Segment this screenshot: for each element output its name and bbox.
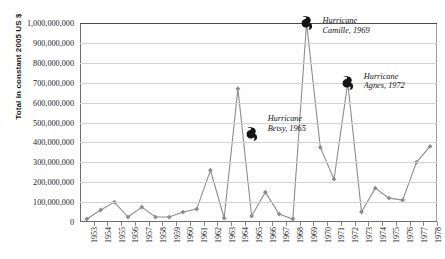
x-axis-tick (437, 222, 438, 226)
hurricane-annotation-label: HurricaneCamille, 1969 (323, 16, 370, 35)
x-axis-tick-label: 1973 (365, 227, 374, 243)
x-axis-tick-label: 1970 (324, 227, 333, 243)
data-point-marker (359, 210, 364, 215)
x-axis-tick-label: 1953 (90, 227, 99, 243)
x-axis-tick-label: 1967 (282, 227, 291, 243)
series-line (87, 23, 430, 219)
gridline (80, 162, 437, 163)
x-axis-tick (231, 222, 232, 226)
x-axis-tick (245, 222, 246, 226)
x-axis-tick (135, 222, 136, 226)
data-point-marker (332, 177, 337, 182)
annotation-line-1: Hurricane (268, 114, 306, 124)
hurricane-annotation-label: HurricaneBetsy, 1965 (268, 114, 306, 133)
x-axis-tick-label: 1961 (200, 227, 209, 243)
x-axis-tick (162, 222, 163, 226)
x-axis-tick (176, 222, 177, 226)
annotation-line-1: Hurricane (323, 16, 370, 26)
annotation-line-1: Hurricane (364, 72, 405, 82)
x-axis-tick (286, 222, 287, 226)
x-axis-tick-label: 1968 (296, 227, 305, 243)
y-axis-tick-label: 0 (70, 218, 74, 227)
x-axis-tick-label: 1963 (228, 227, 237, 243)
gridline (80, 202, 437, 203)
x-axis-tick-label: 1964 (241, 227, 250, 243)
x-axis-tick-label: 1977 (420, 227, 429, 243)
x-axis-tick-label: 1971 (337, 227, 346, 243)
x-axis-tick-label: 1975 (392, 227, 401, 243)
gridline (80, 43, 437, 44)
x-axis-tick-label: 1956 (131, 227, 140, 243)
x-axis-tick (149, 222, 150, 226)
x-axis-tick-label: 1958 (159, 227, 168, 243)
x-axis-tick (94, 222, 95, 226)
data-point-marker (208, 168, 213, 173)
y-axis-tick-label: 1,000,000,000 (27, 19, 74, 28)
x-axis-tick (341, 222, 342, 226)
hurricane-icon (243, 126, 260, 143)
x-axis-tick-label: 1965 (255, 227, 264, 243)
x-axis-tick (217, 222, 218, 226)
hurricane-damage-chart: Total in constant 2005 US $ 1,000,000,00… (0, 0, 445, 259)
x-axis-tick (313, 222, 314, 226)
data-point-marker (222, 216, 227, 221)
gridline (80, 23, 437, 24)
x-axis-tick (300, 222, 301, 226)
x-axis-tick-label: 1955 (118, 227, 127, 243)
x-axis-tick (382, 222, 383, 226)
x-axis-tick-label: 1959 (173, 227, 182, 243)
data-point-marker (318, 145, 323, 150)
x-axis-tick (190, 222, 191, 226)
x-axis-tick (327, 222, 328, 226)
x-axis-tick-label: 1954 (104, 227, 113, 243)
gridline (80, 182, 437, 183)
x-axis-tick-label: 1966 (269, 227, 278, 243)
gridline (80, 103, 437, 104)
annotation-line-2: Betsy, 1965 (268, 124, 306, 134)
data-point-marker (167, 215, 172, 220)
y-axis-tick-label: 500,000,000 (33, 118, 74, 127)
y-axis-tick-label: 900,000,000 (33, 38, 74, 47)
y-axis-tick-label: 200,000,000 (33, 178, 74, 187)
x-axis-tick (259, 222, 260, 226)
x-axis-tick (368, 222, 369, 226)
data-point-marker (249, 214, 254, 219)
data-point-marker (181, 210, 186, 215)
x-axis-tick (423, 222, 424, 226)
y-axis-tick-label: 600,000,000 (33, 98, 74, 107)
plot-area (80, 23, 437, 222)
annotation-line-2: Agnes, 1972 (364, 81, 405, 91)
data-point-marker (194, 207, 199, 212)
y-axis-tick-label: 400,000,000 (33, 138, 74, 147)
annotation-line-2: Camille, 1969 (323, 26, 370, 36)
x-axis-tick-label: 1969 (310, 227, 319, 243)
y-axis-tick-label: 700,000,000 (33, 78, 74, 87)
x-axis-tick-label: 1957 (145, 227, 154, 243)
x-axis-tick (410, 222, 411, 226)
x-axis-tick-label: 1978 (434, 227, 443, 243)
data-point-marker (290, 217, 295, 222)
x-axis-tick-label: 1960 (186, 227, 195, 243)
y-axis-tick-label: 100,000,000 (33, 198, 74, 207)
x-axis-tick (396, 222, 397, 226)
x-axis-tick (272, 222, 273, 226)
x-axis-tick-label: 1974 (379, 227, 388, 243)
y-axis-tick-label: 300,000,000 (33, 158, 74, 167)
y-axis-tick-label: 800,000,000 (33, 58, 74, 67)
x-axis-tick (107, 222, 108, 226)
gridline (80, 63, 437, 64)
x-axis-tick-label: 1972 (351, 227, 360, 243)
x-axis-tick (121, 222, 122, 226)
hurricane-icon (298, 15, 315, 32)
x-axis-tick-label: 1962 (214, 227, 223, 243)
hurricane-annotation-label: HurricaneAgnes, 1972 (364, 72, 405, 91)
data-point-marker (236, 86, 241, 91)
y-axis-tick-labels: 1,000,000,000900,000,000800,000,000700,0… (0, 0, 78, 259)
x-axis-tick-label: 1976 (406, 227, 415, 243)
x-axis-tick-labels: 1953195419551956195719581959196019611962… (80, 227, 437, 259)
x-axis-tick (204, 222, 205, 226)
x-axis-tick (355, 222, 356, 226)
hurricane-icon (339, 74, 356, 91)
gridline (80, 123, 437, 124)
